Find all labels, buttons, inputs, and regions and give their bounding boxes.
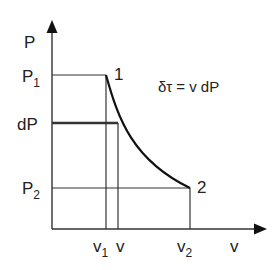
- v-label: v: [116, 237, 125, 256]
- y-axis-label: P: [24, 33, 35, 52]
- work-equation: δτ = v dP: [158, 78, 219, 95]
- y-axis-arrow-icon: [47, 20, 58, 33]
- point-1-label: 1: [114, 65, 123, 84]
- dp-label: dP: [17, 115, 38, 134]
- p1-label: P1: [22, 67, 40, 90]
- v1-label: v1: [93, 237, 109, 260]
- x-axis-arrow-icon: [254, 224, 267, 235]
- v2-label: v2: [177, 237, 193, 260]
- pv-diagram: P v P1 dP P2 v1 v v2 1 2 δτ = v dP: [0, 0, 278, 270]
- point-2-label: 2: [197, 178, 206, 197]
- p2-label: P2: [22, 179, 40, 202]
- x-axis-label: v: [230, 237, 239, 256]
